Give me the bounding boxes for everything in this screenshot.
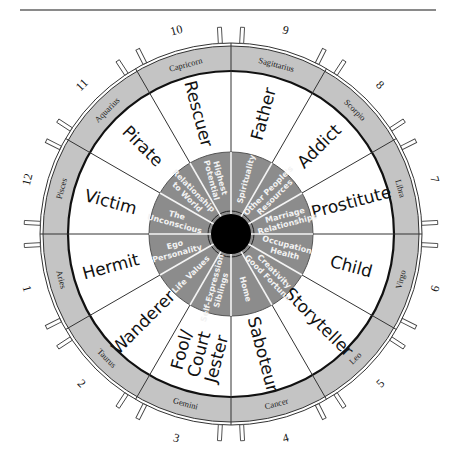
house-number-label: 11 xyxy=(73,76,91,94)
tick-mark xyxy=(240,425,245,441)
tick-mark xyxy=(45,139,61,150)
archetype-wheel: Sagittarius9FatherSpiritualityScorpio8Ad… xyxy=(0,0,458,471)
tick-mark xyxy=(422,243,438,248)
tick-mark xyxy=(315,48,326,64)
tick-mark xyxy=(217,27,222,43)
tick-mark xyxy=(401,318,417,329)
tick-mark xyxy=(401,139,417,150)
house-number-label: 3 xyxy=(172,430,181,445)
house-number-label: 12 xyxy=(19,172,36,187)
tick-mark xyxy=(334,60,346,76)
house-number-label: 10 xyxy=(169,22,184,39)
tick-mark xyxy=(116,393,128,409)
tick-mark xyxy=(116,60,128,76)
house-number-label: 2 xyxy=(75,376,89,390)
tick-mark xyxy=(390,337,406,349)
tick-mark xyxy=(136,48,147,64)
tick-mark xyxy=(24,243,40,248)
tick-mark xyxy=(315,404,326,420)
house-number-label: 7 xyxy=(427,175,442,184)
house-number-label: 4 xyxy=(281,430,290,445)
tick-mark xyxy=(57,119,73,131)
tick-mark xyxy=(136,404,147,420)
house-number-label: 9 xyxy=(281,23,290,38)
tick-mark xyxy=(422,220,438,225)
tick-mark xyxy=(334,393,346,409)
tick-mark xyxy=(390,119,406,131)
tick-mark xyxy=(217,425,222,441)
tick-mark xyxy=(57,337,73,349)
house-number-label: 5 xyxy=(373,376,387,390)
tick-mark xyxy=(240,27,245,43)
house-number-label: 8 xyxy=(373,78,387,92)
house-number-label: 6 xyxy=(427,284,442,293)
tick-mark xyxy=(45,318,61,329)
tick-mark xyxy=(24,220,40,225)
center-core xyxy=(211,214,251,254)
house-number-label: 1 xyxy=(20,284,35,293)
